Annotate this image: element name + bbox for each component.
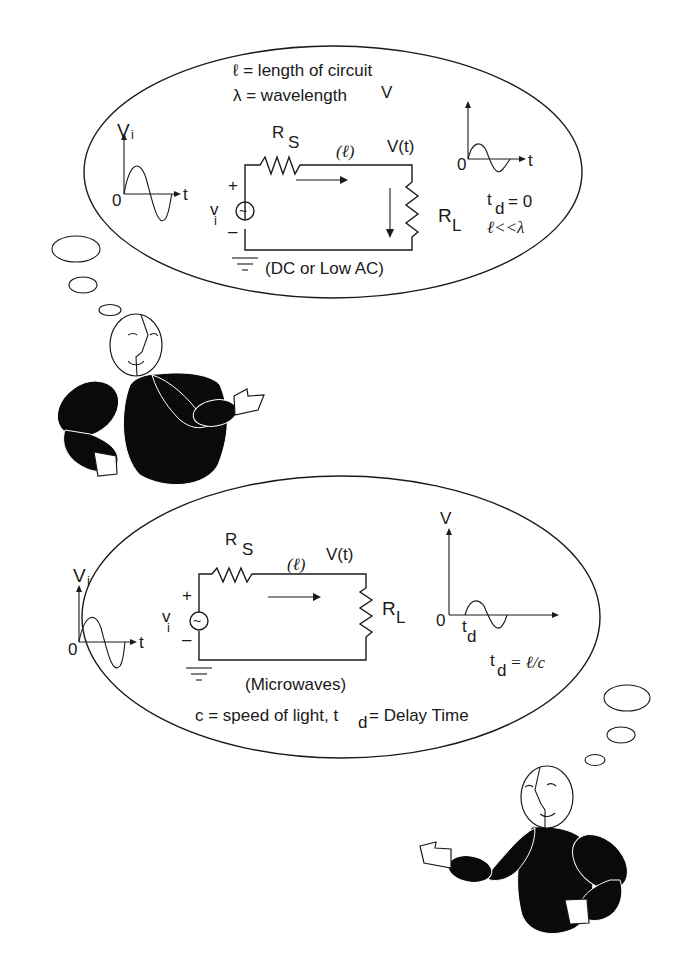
plot-origin: 0 [436,611,445,630]
delay-value: = ℓ/c [510,653,546,672]
thought-bubble-outline [82,476,600,758]
rl-subscript: L [396,608,405,627]
circuit-wire [245,157,418,250]
rl-subscript: L [452,216,461,235]
plot-origin: 0 [68,640,77,659]
rs-subscript: S [288,133,299,152]
plot-y-subscript: i [131,127,134,142]
character-head [521,766,573,828]
condition-text: ℓ<<λ [487,218,524,237]
lumped-circuit: R S (ℓ) V(t) ~ + – v i (DC or Low AC) R … [210,123,461,278]
arrow-right-icon [130,639,137,645]
vt-label: V(t) [326,545,353,564]
source-symbol: ~ [239,203,247,219]
top-thought-bubble: ℓ = length of circuit λ = wavelength V i… [84,46,582,298]
output-voltage-plot: V 0 t [381,83,533,174]
character-hand-right [234,389,264,415]
delay-t: t [490,651,495,670]
arrow-down-icon [386,229,394,238]
footer-part2: = Delay Time [369,706,469,725]
thought-dot-medium [69,277,97,293]
thought-dot-small [99,305,121,316]
arrow-right-icon [340,176,348,184]
bottom-thought-bubble: V i 0 t R S (ℓ) V(t) ~ + – v i [68,476,600,758]
vt-label: V(t) [387,137,414,156]
illustration-canvas: ℓ = length of circuit λ = wavelength V i… [0,0,683,972]
arrow-right-icon [519,156,526,162]
rs-subscript: S [242,540,253,559]
circuit-caption: (Microwaves) [245,675,346,694]
plot-y-subscript: i [87,573,90,588]
ground-icon [232,258,258,270]
character-hand-left [94,452,117,476]
arrow-right-icon [174,191,181,197]
td-marker-subscript: d [467,627,476,646]
legend-length: ℓ = length of circuit [232,61,372,80]
plot-origin: 0 [457,155,466,174]
plus-sign: + [228,176,238,195]
delay-t: t [487,190,492,209]
rs-label: R [272,123,284,142]
source-symbol: ~ [193,613,201,629]
source-subscript: i [167,620,170,635]
plot-x-label: t [528,151,533,170]
delay-value: = 0 [508,192,532,211]
rl-label: R [382,598,396,619]
delay-subscript: d [497,661,506,680]
minus-sign: – [182,630,192,649]
rl-label: R [438,205,452,226]
plot-y-label: V [381,83,393,102]
minus-sign: – [228,222,238,241]
output-voltage-plot: V 0 t d [436,509,559,646]
character-bottom [420,766,638,934]
thought-trail-top [52,236,121,316]
footer-part1: c = speed of light, t [195,706,338,725]
sine-wave [468,144,510,172]
plot-y-label: V [440,509,452,528]
circuit-caption: (DC or Low AC) [265,259,384,278]
arrow-up-icon [446,528,452,535]
rs-label: R [225,530,237,549]
character-top [47,314,264,485]
input-voltage-plot: V i 0 t [112,120,188,221]
plus-sign: + [182,586,192,605]
legend-wavelength: λ = wavelength [233,86,347,105]
thought-dot-medium [607,727,635,743]
arrow-up-icon [76,585,82,592]
plot-x-label: t [183,185,188,204]
sine-wave [124,166,172,221]
length-label: (ℓ) [287,555,306,574]
transmission-line-circuit: R S (ℓ) V(t) ~ + – v i (Microwaves) R L [162,530,405,694]
length-label: (ℓ) [336,142,355,161]
plot-y-label: V [73,565,86,586]
footer-subscript: d [358,713,367,732]
character-forearm-left [446,852,494,885]
arrow-right-icon [552,612,559,618]
plot-x-label: t [139,633,144,652]
thought-dot-large [604,685,650,711]
arrow-up-icon [465,101,471,108]
input-voltage-plot: V i 0 t [68,565,144,668]
plot-origin: 0 [112,191,121,210]
delay-subscript: d [495,199,504,218]
arrow-right-icon [313,593,321,601]
thought-trail-bottom [585,685,650,766]
ground-icon [186,668,212,680]
circuit-wire [199,568,372,660]
thought-dot-small [585,755,605,766]
character-hand-left [420,842,451,868]
source-subscript: i [214,213,217,228]
thought-dot-large [52,236,100,262]
